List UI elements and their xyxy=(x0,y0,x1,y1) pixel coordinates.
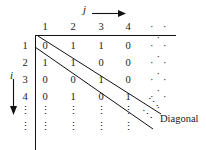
diagonal-caption: Diagonal xyxy=(160,114,199,125)
cell-3-3: 1 xyxy=(92,75,110,86)
cell-2-2: 1 xyxy=(64,58,82,69)
col-1-vdots: ⋮ xyxy=(40,106,50,117)
diagonal-ddots-lower: ⋱ xyxy=(133,110,161,121)
cell-1-3: 1 xyxy=(92,41,110,52)
cell-3-4: 0 xyxy=(119,75,137,86)
column-header-3: 3 xyxy=(92,22,110,33)
row-header-4: 4 xyxy=(18,92,32,103)
col-2-vdots-2: ⋮ xyxy=(68,122,78,133)
cell-2-1: 1 xyxy=(36,58,54,69)
cell-1-4: 0 xyxy=(119,41,137,52)
cell-4-3: 0 xyxy=(92,92,110,103)
row-header-vdots: ⋮ xyxy=(20,106,30,117)
cell-3-2: 0 xyxy=(64,75,82,86)
cell-1-2: 1 xyxy=(64,41,82,52)
column-axis-label: j xyxy=(83,4,86,15)
cell-4-1: 0 xyxy=(36,92,54,103)
cell-2-3: 0 xyxy=(92,58,110,69)
row-header-1: 1 xyxy=(18,41,32,52)
cell-2-4: 0 xyxy=(119,58,137,69)
cell-4-4: 1 xyxy=(119,92,137,103)
row-header-2: 2 xyxy=(18,58,32,69)
cell-1-1: 0 xyxy=(36,41,54,52)
down-arrow-icon xyxy=(9,79,18,115)
col-4-vdots: ⋮ xyxy=(123,106,133,117)
row-header-3: 3 xyxy=(18,75,32,86)
col-4-vdots-2: ⋮ xyxy=(123,122,133,133)
column-header-4: 4 xyxy=(119,22,137,33)
row-header-vdots-2: ⋮ xyxy=(20,122,30,133)
col-3-vdots: ⋮ xyxy=(96,106,106,117)
diagonal-ddots-upper: ⋱ xyxy=(139,98,167,109)
cell-4-2: 1 xyxy=(64,92,82,103)
col-3-vdots-2: ⋮ xyxy=(96,122,106,133)
right-arrow-icon xyxy=(92,9,126,18)
cell-3-1: 0 xyxy=(36,75,54,86)
col-1-vdots-2: ⋮ xyxy=(40,122,50,133)
cantor-diagonal-figure: j i 1 2 3 4 · · · 1 0 1 1 0 · · · 2 1 1 … xyxy=(0,0,206,150)
column-header-1: 1 xyxy=(36,22,54,33)
col-2-vdots: ⋮ xyxy=(68,106,78,117)
column-header-2: 2 xyxy=(64,22,82,33)
